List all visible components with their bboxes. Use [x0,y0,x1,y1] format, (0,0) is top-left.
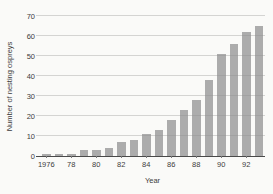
y-tick-label-10: 10 [19,132,35,141]
y-tick-label-50: 50 [19,52,35,61]
bar-1992 [242,32,251,156]
gridline-y-40 [36,75,265,76]
x-tick-mark-1978 [71,156,72,158]
gridline-y-30 [36,95,265,96]
bar-1984 [142,134,151,156]
x-tick-label-1988: 88 [192,160,200,169]
x-tick-label-1978: 78 [67,160,75,169]
gridline-y-50 [36,55,265,56]
x-tick-mark-1990 [221,156,222,158]
x-tick-mark-1992 [246,156,247,158]
x-tick-label-1982: 82 [117,160,125,169]
bar-1982 [117,142,126,156]
y-tick-label-40: 40 [19,72,35,81]
plot-area [40,16,265,156]
y-tick-label-30: 30 [19,92,35,101]
x-tick-label-1980: 80 [92,160,100,169]
x-tick-label-1990: 90 [217,160,225,169]
bar-1987 [180,110,189,156]
y-axis-title: Number of nesting ospreys [5,27,14,147]
bar-1983 [130,140,139,156]
x-tick-mark-1988 [196,156,197,158]
gridline-y-10 [36,135,265,136]
y-tick-label-60: 60 [19,32,35,41]
x-tick-label-1984: 84 [142,160,150,169]
y-tick-label-20: 20 [19,112,35,121]
bar-1981 [105,148,114,156]
y-tick-label-70: 70 [19,12,35,21]
x-tick-label-1976: 1976 [38,160,55,169]
bar-1991 [230,44,239,156]
x-tick-mark-1986 [171,156,172,158]
x-tick-mark-1980 [96,156,97,158]
x-axis-title: Year [40,176,265,185]
osprey-bar-chart: Number of nesting ospreys Year 010203040… [0,0,273,194]
bar-1985 [155,130,164,156]
x-tick-mark-1982 [121,156,122,158]
y-tick-label-0: 0 [19,152,35,161]
x-tick-label-1986: 86 [167,160,175,169]
bar-1990 [217,54,226,156]
gridline-y-20 [36,115,265,116]
x-tick-mark-1976 [46,156,47,158]
bar-1993 [255,26,264,156]
gridline-y-60 [36,35,265,36]
x-tick-label-1992: 92 [242,160,250,169]
bar-1989 [205,80,214,156]
bar-1986 [167,120,176,156]
x-tick-mark-1984 [146,156,147,158]
gridline-y-70 [36,15,265,16]
bar-1988 [192,100,201,156]
